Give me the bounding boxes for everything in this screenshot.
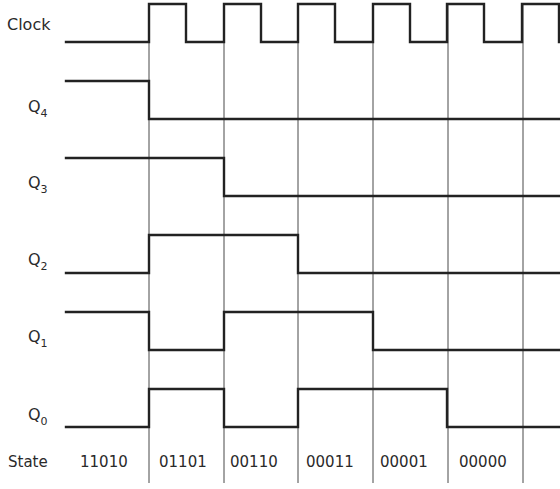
waveform-q0 <box>66 389 560 427</box>
state-row-label: State <box>8 453 48 471</box>
label-clock: Clock <box>7 15 51 34</box>
state-value-1: 01101 <box>159 453 207 471</box>
signal-waveforms <box>66 4 560 427</box>
waveform-clock <box>66 4 559 42</box>
waveform-q4 <box>66 81 560 119</box>
waveform-q3 <box>66 158 560 196</box>
label-q1: Q1 <box>28 327 48 350</box>
timing-diagram-canvas: ClockQ4Q3Q2Q1Q0 State 110100110100110000… <box>0 0 560 489</box>
label-q4: Q4 <box>28 97 48 120</box>
clock-edge-gridlines <box>149 4 523 483</box>
state-value-3: 00011 <box>306 453 354 471</box>
state-value-4: 00001 <box>380 453 428 471</box>
state-value-2: 00110 <box>230 453 278 471</box>
timing-diagram: ClockQ4Q3Q2Q1Q0 State 110100110100110000… <box>0 0 560 489</box>
label-q2: Q2 <box>28 250 48 273</box>
state-value-0: 11010 <box>80 453 128 471</box>
waveform-q2 <box>66 235 560 273</box>
label-q3: Q3 <box>28 173 48 196</box>
waveform-q1 <box>66 312 560 350</box>
label-q0: Q0 <box>28 405 48 428</box>
signal-labels: ClockQ4Q3Q2Q1Q0 <box>7 15 51 428</box>
state-value-5: 00000 <box>459 453 507 471</box>
state-row: State 110100110100110000110000100000 <box>8 453 507 471</box>
